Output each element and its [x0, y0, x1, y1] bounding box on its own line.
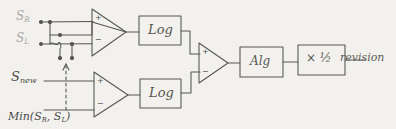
log-top-label: Log: [148, 23, 173, 36]
input-label-min: Min(SR, SL): [8, 111, 70, 124]
output-label-revision: revision: [340, 52, 384, 63]
log-bottom-label: Log: [149, 86, 174, 99]
amp-top-minus-sign: −: [95, 36, 102, 44]
resistor-network-top: [50, 22, 92, 60]
half-gain-label: × ½: [306, 52, 332, 64]
amp-diff-plus-sign: +: [202, 48, 209, 56]
amp-bottom-plus-sign: +: [97, 77, 104, 85]
wire-log-bottom-to-diff-minus: [181, 72, 200, 93]
wire-log-top-to-diff-plus: [181, 31, 200, 54]
input-rail-sr: [40, 20, 94, 23]
amp-diff-minus-sign: −: [202, 68, 209, 76]
input-label-sl: SL: [16, 32, 29, 45]
input-label-sr: SR: [16, 10, 30, 23]
handwritten-schematic-canvas: SR SL Snew Min(SR, SL) + − + − + − Log L…: [0, 0, 396, 129]
amp-bottom-minus-sign: −: [97, 100, 104, 108]
amp-top-plus-sign: +: [95, 14, 102, 22]
input-rail-sl: [40, 43, 92, 46]
input-label-snew: Snew: [11, 70, 37, 85]
alg-label: Alg: [250, 55, 270, 67]
